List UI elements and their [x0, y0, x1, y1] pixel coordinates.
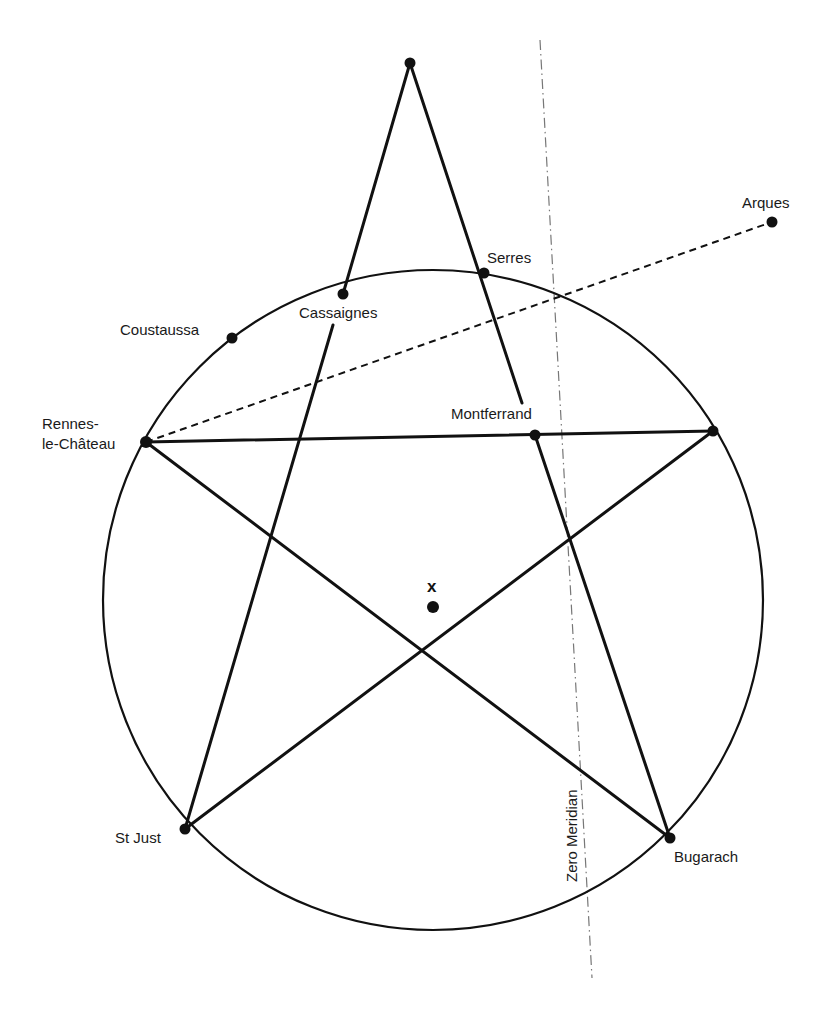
label-bugarach: Bugarach [674, 848, 738, 865]
arques-dot [767, 217, 778, 228]
pentagram-diagram: Serres Cassaignes Coustaussa Rennes- le-… [0, 0, 838, 1020]
label-x-mark: x [427, 577, 437, 596]
montferrand-bugarach-line [535, 435, 670, 838]
label-stjust: St Just [115, 829, 162, 846]
right-vertex-dot [708, 426, 719, 437]
right-stjust-line [185, 431, 713, 829]
apex-dot [405, 58, 416, 69]
rennes-bugarach-line [146, 442, 670, 838]
label-coustaussa: Coustaussa [120, 321, 200, 338]
apex-montferrand-line [410, 63, 522, 403]
label-cassaignes: Cassaignes [299, 304, 377, 321]
label-montferrand: Montferrand [451, 405, 532, 422]
label-rennes-line1: Rennes- [42, 415, 99, 432]
serres-dot [479, 268, 490, 279]
stjust-dot [180, 824, 191, 835]
cassaignes-stjust-line [185, 325, 333, 829]
label-serres: Serres [487, 249, 531, 266]
label-arques: Arques [742, 194, 790, 211]
rennes-right-line [146, 431, 713, 442]
rennes-dot [140, 436, 152, 448]
apex-cassaignes-line [343, 63, 410, 294]
bugarach-dot [665, 833, 676, 844]
coustaussa-dot [227, 333, 238, 344]
label-rennes-line2: le-Château [42, 435, 115, 452]
label-zero-meridian: Zero Meridian [563, 789, 580, 882]
montferrand-dot [530, 430, 541, 441]
cassaignes-dot [338, 289, 349, 300]
x-point-dot [427, 601, 439, 613]
enclosing-circle [103, 270, 763, 930]
